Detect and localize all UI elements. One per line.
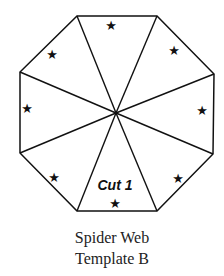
star-icon: ★	[109, 196, 121, 211]
caption-subtitle: Template B	[0, 249, 224, 269]
star-icon: ★	[172, 171, 184, 186]
star-icon: ★	[105, 18, 117, 33]
cut-label: Cut 1	[98, 177, 133, 193]
spider-web-octagon-diagram: ★ ★ ★ ★ ★ ★ ★ ★ Cut 1	[0, 0, 224, 220]
star-icon: ★	[168, 43, 180, 58]
star-icon: ★	[48, 170, 60, 185]
star-icon: ★	[21, 101, 33, 116]
star-icon: ★	[46, 47, 58, 62]
caption-title: Spider Web	[0, 228, 224, 248]
star-icon: ★	[196, 103, 208, 118]
